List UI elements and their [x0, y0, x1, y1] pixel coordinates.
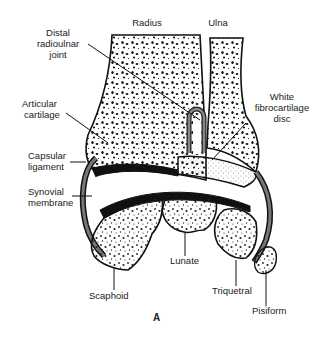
label-synovial-membrane-line1: Synovial — [28, 187, 64, 198]
label-triquetral: Triquetral — [212, 286, 252, 297]
triquetral-bone — [215, 209, 257, 259]
label-distal-radioulnar-joint-line2: radioulnar — [28, 39, 88, 50]
label-scaphoid: Scaphoid — [89, 291, 129, 302]
wrist-joint-diagram: Radius Ulna Distal radioulnar joint Arti… — [0, 0, 332, 337]
label-capsular-ligament-line1: Capsular — [28, 151, 66, 162]
figure-label: A — [153, 313, 160, 324]
label-synovial-membrane-line2: membrane — [28, 198, 73, 209]
label-white-fibrocartilage-disc-line2: fibrocartilage — [240, 103, 324, 114]
label-distal-radioulnar-joint-line1: Distal — [28, 28, 88, 39]
scaphoid-bone — [92, 196, 163, 270]
label-capsular-ligament-line2: ligament — [28, 162, 64, 173]
label-white-fibrocartilage-disc-line3: disc — [240, 114, 324, 125]
label-lunate: Lunate — [170, 256, 199, 267]
label-articular-cartilage-line1: Articular — [22, 99, 57, 110]
label-white-fibrocartilage-disc-line1: White — [240, 92, 324, 103]
label-distal-radioulnar-joint-line3: joint — [28, 50, 88, 61]
label-radius: Radius — [122, 18, 172, 29]
label-articular-cartilage-line2: cartilage — [24, 110, 60, 121]
label-ulna: Ulna — [198, 18, 238, 29]
lunate-bone — [162, 194, 217, 233]
label-pisiform: Pisiform — [252, 306, 286, 317]
